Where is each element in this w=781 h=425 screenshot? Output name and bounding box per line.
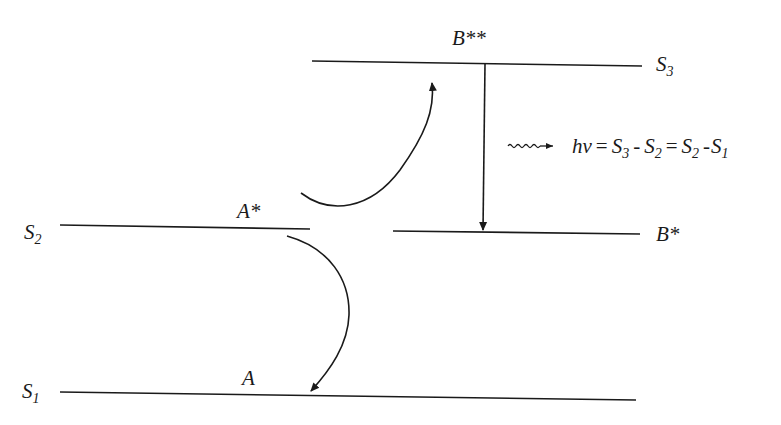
symbol-text: S	[24, 220, 35, 244]
relaxation-arrow	[287, 236, 349, 391]
emission-arrow	[483, 64, 485, 230]
level-s3-symbol: S3	[656, 54, 674, 79]
excitation-arrow	[301, 83, 433, 206]
eq-minus: -	[629, 136, 644, 157]
subscript: 3	[667, 64, 674, 79]
state-label-a-star: A*	[237, 201, 260, 222]
eq-subscript: 2	[655, 146, 662, 161]
state-label-a: A	[242, 368, 255, 389]
symbol-text: S	[656, 52, 667, 76]
energy-equation: hν=S3-S2=S2-S1	[572, 136, 729, 161]
eq-term: S	[711, 136, 722, 157]
eq-h-nu: hν	[572, 136, 592, 157]
eq-equals: =	[662, 136, 682, 157]
photon-wavy-line	[508, 145, 540, 148]
eq-term: S	[682, 136, 693, 157]
energy-level-diagram: S2 S1 S3 B** A* B* A hν=S3-S2=S2-S1	[0, 0, 781, 425]
eq-term: S	[644, 136, 655, 157]
eq-subscript: 1	[722, 146, 729, 161]
symbol-text: S	[22, 379, 33, 403]
level-s2-line-b	[393, 231, 640, 234]
level-s2-line-a	[60, 225, 310, 229]
level-s3-line	[312, 61, 642, 66]
eq-minus: -	[699, 136, 711, 157]
state-label-b-double-star: B**	[452, 28, 486, 49]
eq-term: S	[612, 136, 623, 157]
subscript: 1	[33, 391, 40, 406]
level-s1-line	[60, 392, 636, 400]
level-s2-symbol: S2	[24, 222, 42, 247]
state-label-b-star: B*	[656, 224, 679, 245]
eq-equals: =	[592, 136, 612, 157]
level-s1-symbol: S1	[22, 381, 40, 406]
subscript: 2	[35, 232, 42, 247]
eq-subscript: 3	[622, 146, 629, 161]
eq-subscript: 2	[692, 146, 699, 161]
